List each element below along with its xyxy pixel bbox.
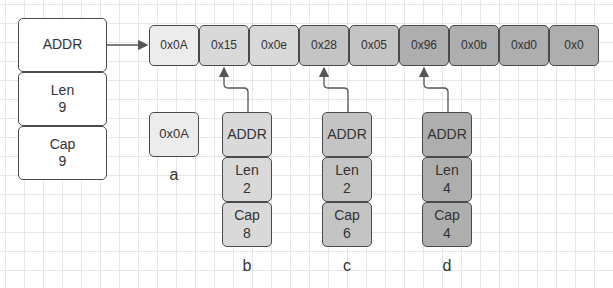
d-addr-arrow — [424, 68, 448, 112]
b-addr-arrow — [224, 68, 248, 112]
c-addr-arrow — [324, 68, 348, 112]
pointer-arrows — [0, 0, 613, 288]
